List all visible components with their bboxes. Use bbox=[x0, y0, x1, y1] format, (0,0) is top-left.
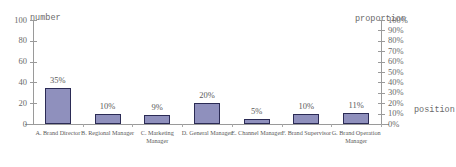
y-tick-label: 60 bbox=[5, 56, 27, 66]
bar-value-label: 10% bbox=[299, 101, 315, 111]
y-tick-label: 100 bbox=[5, 15, 27, 25]
secondary-y-tick-label: 0% bbox=[388, 119, 399, 129]
bar[interactable] bbox=[45, 88, 71, 124]
y-tick-mark bbox=[30, 124, 37, 125]
bar[interactable] bbox=[293, 114, 319, 124]
secondary-y-tick-label: 60% bbox=[388, 56, 404, 66]
x-tick-label: F. Brand Supervisor bbox=[279, 129, 335, 137]
x-tick-label: A. Brand Director bbox=[30, 129, 86, 137]
plot-area: 35%10%9%20%5%10%11% bbox=[33, 20, 381, 124]
y-tick-label: 40 bbox=[5, 77, 27, 87]
secondary-y-tick-label: 40% bbox=[388, 77, 404, 87]
x-tick-label: B. Regional Manager bbox=[80, 129, 136, 137]
secondary-y-tick-label: 100% bbox=[388, 15, 408, 25]
bar-group[interactable]: 5% bbox=[232, 20, 282, 124]
y-tick-label: 80 bbox=[5, 35, 27, 45]
secondary-y-tick-label: 30% bbox=[388, 87, 404, 97]
bar-group[interactable]: 10% bbox=[83, 20, 133, 124]
secondary-y-tick-label: 50% bbox=[388, 67, 404, 77]
bar[interactable] bbox=[244, 119, 270, 124]
x-axis-line bbox=[25, 124, 389, 125]
secondary-y-tick-label: 80% bbox=[388, 35, 404, 45]
x-tick-label: G. Brand Operation Manager bbox=[328, 129, 384, 144]
bar-value-label: 9% bbox=[152, 102, 163, 112]
bar-value-label: 20% bbox=[199, 90, 215, 100]
bar-chart: number proportion position 020406080100 … bbox=[0, 0, 456, 167]
bar-value-label: 5% bbox=[251, 106, 262, 116]
x-axis-title: position bbox=[414, 105, 455, 115]
bar-group[interactable]: 20% bbox=[182, 20, 232, 124]
x-tick-label: E. Channel Manager bbox=[229, 129, 285, 137]
bar-group[interactable]: 11% bbox=[331, 20, 381, 124]
bar[interactable] bbox=[144, 115, 170, 124]
x-tick-mark bbox=[182, 124, 183, 127]
x-tick-mark bbox=[83, 124, 84, 127]
y-tick-label: 20 bbox=[5, 98, 27, 108]
x-tick-mark bbox=[381, 124, 382, 127]
y-tick-label: 0 bbox=[5, 119, 27, 129]
secondary-y-tick-label: 90% bbox=[388, 25, 404, 35]
x-tick-mark bbox=[282, 124, 283, 127]
x-tick-mark bbox=[232, 124, 233, 127]
secondary-y-tick-label: 20% bbox=[388, 98, 404, 108]
bar-value-label: 11% bbox=[348, 100, 363, 110]
bar-group[interactable]: 10% bbox=[282, 20, 332, 124]
x-tick-mark bbox=[331, 124, 332, 127]
x-tick-label: C. Marketing Manager bbox=[129, 129, 185, 144]
bar-group[interactable]: 9% bbox=[132, 20, 182, 124]
secondary-y-tick-label: 70% bbox=[388, 46, 404, 56]
x-tick-label: D. General Manager bbox=[179, 129, 235, 137]
bar-group[interactable]: 35% bbox=[33, 20, 83, 124]
secondary-y-tick-label: 10% bbox=[388, 108, 404, 118]
x-tick-mark bbox=[132, 124, 133, 127]
bar-value-label: 10% bbox=[100, 101, 116, 111]
bar[interactable] bbox=[194, 103, 220, 124]
bar[interactable] bbox=[343, 113, 369, 124]
bar-value-label: 35% bbox=[50, 75, 66, 85]
bar[interactable] bbox=[95, 114, 121, 124]
